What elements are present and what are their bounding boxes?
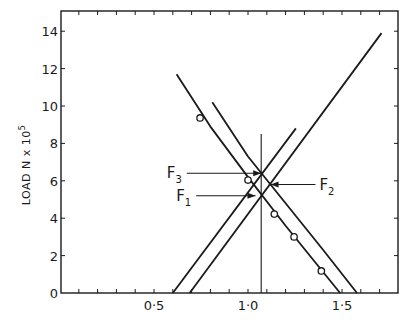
- y-tick-label: 6: [50, 174, 58, 189]
- force-label-f2: F2: [319, 176, 334, 197]
- data-point-circle: [291, 234, 297, 240]
- data-point-circle: [197, 115, 203, 121]
- y-axis-label: LOAD N x 105: [18, 125, 33, 206]
- y-tick-label: 10: [41, 99, 58, 114]
- data-series: [173, 33, 382, 293]
- x-tick-label: 1·0: [238, 298, 259, 313]
- force-label-f1: F1: [176, 187, 191, 208]
- rising-line-2: [190, 33, 382, 293]
- y-tick-label: 12: [41, 62, 58, 77]
- x-axis-ticks: 0·51·01·5: [79, 11, 380, 313]
- data-point-circle: [271, 211, 277, 217]
- falling-curve-1: [177, 74, 341, 293]
- y-axis-label-main: LOAD N x 10: [20, 130, 33, 205]
- y-tick-label: 0: [50, 286, 58, 301]
- arrow-head-icon: [248, 193, 256, 199]
- y-axis-label-exponent: 5: [18, 125, 27, 131]
- y-tick-label: 14: [41, 24, 58, 39]
- load-chart: 0·51·01·5 02468101214 F3F1F2 LOAD N x 10…: [0, 0, 412, 331]
- data-point-circle: [318, 268, 324, 274]
- x-tick-label: 0·5: [144, 298, 165, 313]
- force-label-f3: F3: [167, 164, 182, 185]
- falling-curve-2: [212, 102, 357, 293]
- x-tick-label: 1·5: [332, 298, 353, 313]
- y-axis-ticks: 02468101214: [41, 24, 398, 301]
- y-tick-label: 4: [50, 211, 58, 226]
- force-annotations: F3F1F2: [167, 164, 335, 207]
- y-tick-label: 8: [50, 136, 58, 151]
- data-point-circle: [245, 177, 251, 183]
- y-tick-label: 2: [50, 249, 58, 264]
- rising-line-1: [173, 128, 296, 293]
